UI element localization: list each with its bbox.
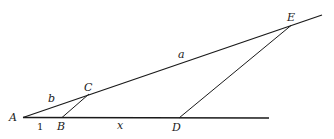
label-point-d: D: [171, 121, 181, 134]
label-segment-bd: x: [117, 119, 124, 132]
label-segment-ab: 1: [37, 121, 43, 132]
label-point-c: C: [84, 81, 93, 94]
similar-triangles-diagram: A B C D E 1 x b a: [0, 0, 334, 139]
label-point-e: E: [286, 11, 295, 24]
segment-bc: [62, 94, 89, 118]
base-line: [23, 118, 269, 119]
upper-line: [23, 15, 322, 118]
label-point-b: B: [56, 120, 65, 133]
label-segment-ce: a: [178, 48, 185, 61]
label-point-a: A: [8, 111, 17, 124]
segment-de: [179, 26, 291, 119]
label-segment-ac: b: [48, 92, 55, 105]
